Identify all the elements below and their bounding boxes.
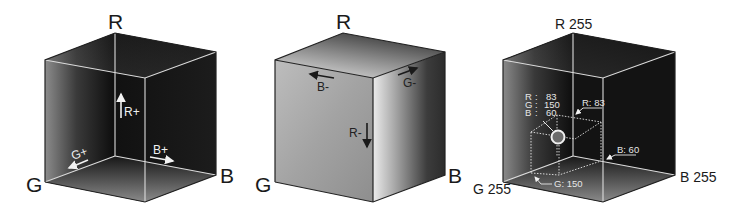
color-point-marker [552, 131, 565, 144]
cube-left-b-corner-label: B [220, 164, 234, 187]
cube-middle-b-arrow-label: B- [317, 80, 329, 94]
cube-left-r-corner-label: R [108, 10, 123, 33]
readout-b-channel: B [525, 107, 531, 118]
cube-left-b-arrow-label: B+ [153, 143, 168, 157]
readout-b-value: 60 [546, 107, 557, 118]
cube-left: R+ G+ B+ R G B [26, 10, 234, 202]
cube-middle-r-corner-label: R [336, 10, 351, 33]
callout-r-label: R: 83 [582, 97, 605, 108]
cube-middle-g-corner-label: G [255, 173, 271, 196]
callout-b-label: B: 60 [617, 144, 639, 155]
cube-left-r-arrow-label: R+ [124, 105, 140, 119]
cube-left-g-corner-label: G [26, 173, 42, 196]
readout-b-sep: : [535, 107, 538, 118]
rgb-cube-diagram: R+ G+ B+ R G B B- G- R- R G B [0, 0, 741, 215]
callout-g-label: G: 150 [554, 178, 583, 189]
cube-right-b-corner-label: B 255 [680, 169, 717, 185]
cube-right-g-corner-label: G 255 [473, 181, 511, 197]
cube-middle: B- G- R- R G B [255, 10, 462, 202]
cube-middle-b-corner-label: B [448, 164, 462, 187]
cube-middle-r-arrow-label: R- [349, 126, 362, 140]
cube-right: R : 83 G : 150 B : 60 R: 83 B: 60 G: 150… [473, 16, 717, 202]
cube-middle-g-arrow-label: G- [403, 76, 416, 90]
cube-right-r-corner-label: R 255 [555, 16, 593, 32]
